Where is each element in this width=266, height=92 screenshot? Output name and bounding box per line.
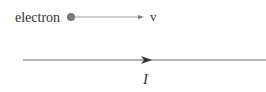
- current-label: I: [142, 71, 149, 87]
- diagram-canvas: electron v I: [0, 0, 266, 92]
- velocity-arrow: [75, 15, 144, 19]
- electron-label: electron: [15, 10, 60, 25]
- electron-dot: [67, 13, 75, 21]
- wire-current: [23, 56, 266, 64]
- velocity-label: v: [150, 9, 157, 24]
